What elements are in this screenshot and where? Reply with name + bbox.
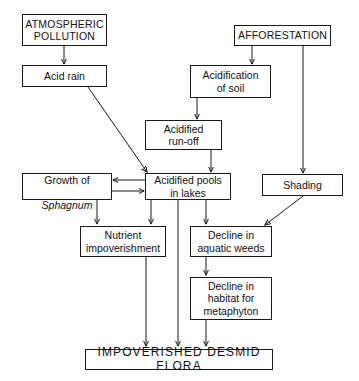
edge-acid-rain-to-acidified-pools — [88, 87, 147, 172]
node-acidified-pools-in-lakes[interactable]: Acidified pools in lakes — [145, 173, 231, 200]
node-label-line1: Growth of — [44, 174, 90, 186]
node-acidified-run-off[interactable]: Acidified run-off — [145, 120, 222, 150]
node-label: AFFORESTATION — [235, 29, 330, 41]
node-afforestation[interactable]: AFFORESTATION — [234, 25, 331, 46]
node-label: Decline in habitat for metaphyton — [201, 280, 262, 316]
node-label-wrapper: Growth of Sphagnum — [39, 162, 96, 210]
node-shading[interactable]: Shading — [262, 174, 343, 196]
node-label: Acid rain — [41, 70, 88, 82]
node-label: IMPOVERISHED DESMID FLORA — [86, 346, 272, 374]
node-label: Acidified pools in lakes — [151, 174, 225, 198]
node-decline-in-aquatic-weeds[interactable]: Decline in aquatic weeds — [190, 226, 272, 257]
node-label-line2-species: Sphagnum — [42, 199, 93, 211]
edge-shading-to-decline-in-aquatic-weeds — [265, 196, 303, 225]
node-label: Acidification of soil — [199, 69, 261, 93]
node-acid-rain[interactable]: Acid rain — [22, 65, 107, 87]
node-nutrient-impoverishment[interactable]: Nutrient impoverishment — [80, 226, 166, 257]
node-atmospheric-pollution[interactable]: ATMOSPHERIC POLLUTION — [22, 14, 107, 46]
flowchart-diagram: ATMOSPHERIC POLLUTION AFFORESTATION Acid… — [0, 0, 359, 381]
node-label: Decline in aquatic weeds — [194, 229, 267, 253]
node-growth-of-sphagnum[interactable]: Growth of Sphagnum — [22, 173, 112, 200]
node-label: Acidified run-off — [161, 123, 207, 147]
node-label: ATMOSPHERIC POLLUTION — [22, 18, 106, 42]
node-label: Nutrient impoverishment — [83, 229, 163, 253]
node-decline-in-habitat-for-metaphyton[interactable]: Decline in habitat for metaphyton — [190, 277, 272, 320]
node-acidification-of-soil[interactable]: Acidification of soil — [190, 65, 271, 98]
node-impoverished-desmid-flora[interactable]: IMPOVERISHED DESMID FLORA — [85, 349, 273, 370]
node-label: Shading — [280, 179, 325, 191]
